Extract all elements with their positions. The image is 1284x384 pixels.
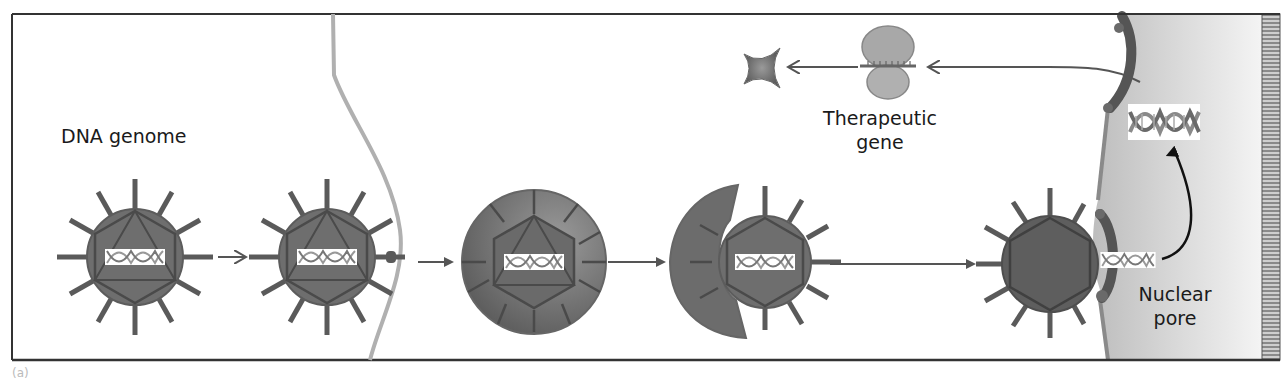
therapeutic-gene-line1: Therapeutic [820, 106, 940, 130]
therapeutic-gene-label: Therapeutic gene [820, 106, 940, 154]
virus-docked [976, 188, 1098, 338]
virus-escaping [670, 185, 841, 338]
mrna-export-arrow [928, 67, 1140, 82]
nuclear-pore-line1: Nuclear [1130, 282, 1220, 306]
cell-membrane [333, 14, 401, 360]
nuclear-pore-line2: pore [1130, 306, 1220, 330]
gene-therapy-diagram [0, 0, 1284, 384]
endosome [462, 190, 606, 334]
therapeutic-gene-line2: gene [820, 130, 940, 154]
striped-edge [1262, 14, 1280, 360]
frame [12, 14, 1280, 360]
nuclear-dna-icon [1128, 104, 1200, 140]
protein-icon [744, 48, 780, 88]
dna-genome-label: DNA genome [61, 124, 187, 148]
panel-label: (a) [12, 366, 29, 380]
nuclear-pore-label: Nuclear pore [1130, 282, 1220, 330]
dna-entering-pore [1100, 252, 1155, 268]
virus-free [57, 179, 213, 335]
receptor-icon [386, 251, 396, 263]
ribosome-icon [860, 26, 916, 99]
virus-bound [249, 179, 405, 335]
